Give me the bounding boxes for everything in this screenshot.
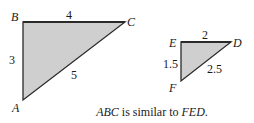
vertex-label-b: B	[11, 10, 19, 24]
side-label-ac: 5	[71, 68, 77, 82]
caption-text: ABC is similar to FED.	[46, 105, 208, 119]
vertex-label-e: E	[168, 36, 177, 50]
triangle-abc: B C A 4 3 5	[9, 8, 136, 115]
side-label-fd: 2.5	[207, 62, 222, 76]
caption-fed: FED	[182, 105, 205, 119]
vertex-label-c: C	[127, 15, 136, 29]
triangle-abc-shape	[23, 22, 125, 100]
caption: ABC is similar to FED.	[0, 105, 254, 120]
side-label-ab: 3	[9, 53, 15, 67]
vertex-label-d: D	[232, 36, 242, 50]
vertex-label-f: F	[168, 81, 177, 95]
triangle-fed: E D F 2 1.5 2.5	[163, 28, 242, 95]
side-label-ed: 2	[202, 28, 208, 42]
side-label-ef: 1.5	[163, 57, 178, 71]
caption-abc: ABC	[96, 105, 119, 119]
caption-middle: is similar to	[119, 105, 182, 119]
side-label-bc: 4	[66, 8, 72, 22]
caption-period: .	[205, 105, 208, 119]
triangle-fed-shape	[181, 42, 231, 81]
